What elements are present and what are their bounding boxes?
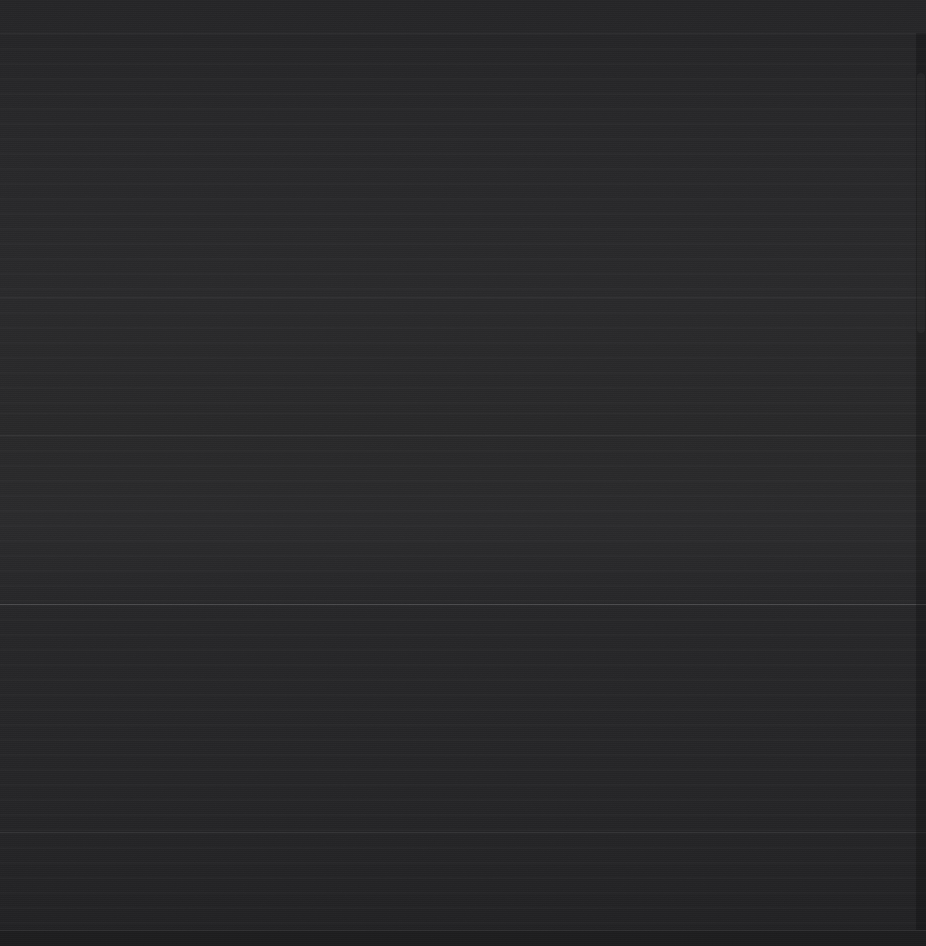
content-texture xyxy=(0,297,926,413)
section-divider-4 xyxy=(0,832,926,833)
section-divider-1 xyxy=(0,297,926,298)
content-texture xyxy=(0,33,926,297)
section-divider-3 xyxy=(0,435,926,436)
section-three-region xyxy=(0,413,926,435)
content-texture xyxy=(0,604,926,832)
primary-section-divider xyxy=(0,604,926,605)
top-bar-divider xyxy=(0,33,926,34)
upper-content-region xyxy=(0,33,926,297)
section-divider-2 xyxy=(0,413,926,414)
content-texture xyxy=(0,832,926,930)
top-bar xyxy=(0,0,926,33)
application-window xyxy=(0,0,926,946)
content-texture xyxy=(0,435,926,604)
main-lower-region xyxy=(0,604,926,832)
section-two-region xyxy=(0,297,926,413)
vertical-scrollbar-thumb[interactable] xyxy=(917,73,925,333)
vertical-scrollbar-track[interactable] xyxy=(916,33,926,930)
sub-lower-region xyxy=(0,832,926,930)
status-bar xyxy=(0,930,926,946)
section-four-region xyxy=(0,435,926,604)
